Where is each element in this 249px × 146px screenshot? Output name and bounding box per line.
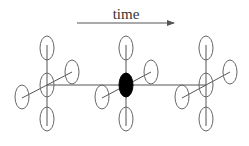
ellipse-west-left (15, 85, 29, 109)
time-label: time (113, 6, 140, 22)
ellipse-west-right (175, 85, 189, 109)
node-group-center (95, 36, 158, 131)
ellipse-center-filled (119, 73, 133, 97)
node-group-right (175, 36, 237, 131)
ellipse-west-center (95, 85, 109, 109)
time-diagram: time (0, 0, 249, 146)
node-group-left (15, 36, 79, 131)
